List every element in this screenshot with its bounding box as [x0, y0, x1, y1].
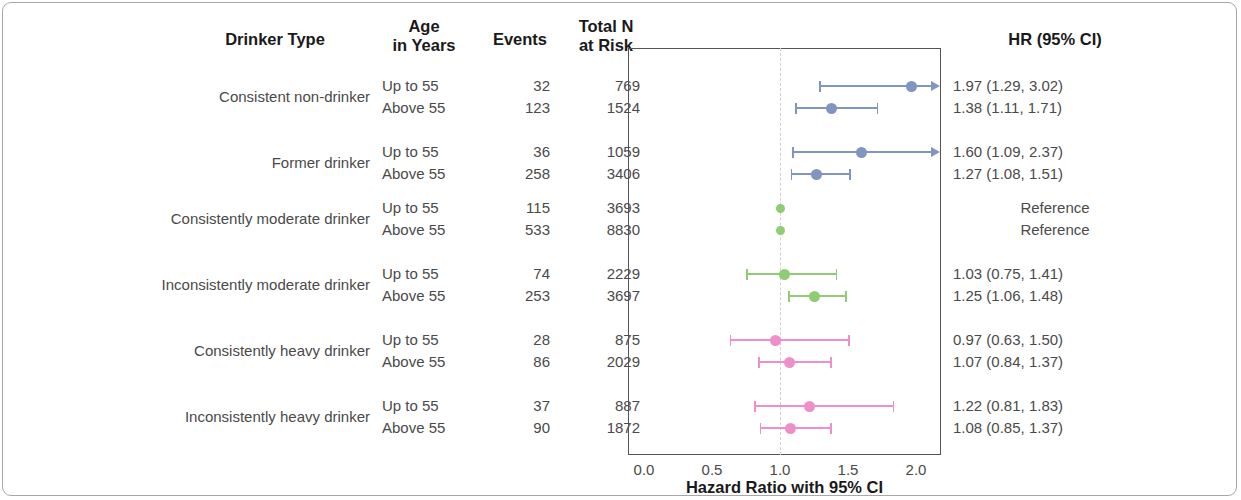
column-header-total-n-line1: Total N — [552, 17, 660, 36]
cell-events: 32 — [478, 78, 550, 94]
cell-age: Above 55 — [382, 222, 492, 238]
ci-cap-upper — [830, 357, 832, 368]
hazard-ratio-point-marker — [784, 357, 795, 368]
ci-cap-lower — [819, 81, 821, 92]
x-tick-label: 2.0 — [886, 461, 946, 478]
cell-hr-value: 1.07 (0.84, 1.37) — [953, 354, 1173, 370]
ci-cap-upper — [836, 269, 838, 280]
cell-hr-value: Reference — [955, 200, 1155, 216]
ci-cap-upper — [848, 335, 850, 346]
ci-cap-lower — [788, 291, 790, 302]
ci-cap-upper — [849, 169, 851, 180]
ci-overflow-arrow-right — [931, 81, 940, 91]
hazard-ratio-point-marker — [826, 103, 837, 114]
row-group-label: Inconsistently moderate drinker — [40, 277, 370, 293]
x-axis-title: Hazard Ratio with 95% CI — [628, 478, 941, 497]
cell-events: 123 — [478, 100, 550, 116]
hazard-ratio-point-marker — [785, 423, 796, 434]
cell-events: 86 — [478, 354, 550, 370]
cell-hr-value: 1.27 (1.08, 1.51) — [953, 166, 1173, 182]
reference-point-marker — [776, 226, 785, 235]
cell-events: 37 — [478, 398, 550, 414]
hazard-ratio-point-marker — [770, 335, 781, 346]
plot-area — [628, 48, 941, 455]
cell-hr-value: 1.25 (1.06, 1.48) — [953, 288, 1173, 304]
cell-events: 533 — [478, 222, 550, 238]
column-header-age-line2: in Years — [368, 36, 480, 55]
row-group-label: Consistently heavy drinker — [40, 343, 370, 359]
ci-cap-lower — [746, 269, 748, 280]
row-group-label: Consistently moderate drinker — [40, 211, 370, 227]
cell-hr-value: 0.97 (0.63, 1.50) — [953, 332, 1173, 348]
x-tick-label: 0.0 — [614, 461, 674, 478]
cell-hr-value: 1.22 (0.81, 1.83) — [953, 398, 1173, 414]
ci-overflow-arrow-right — [931, 147, 940, 157]
column-header-hr: HR (95% CI) — [955, 30, 1155, 49]
cell-hr-value: 1.60 (1.09, 2.37) — [953, 144, 1173, 160]
cell-events: 74 — [478, 266, 550, 282]
reference-line-at-1 — [780, 48, 781, 455]
row-group-label: Inconsistently heavy drinker — [40, 409, 370, 425]
x-tick-label: 1.0 — [750, 461, 810, 478]
ci-cap-upper — [830, 423, 832, 434]
cell-hr-value: 1.03 (0.75, 1.41) — [953, 266, 1173, 282]
hazard-ratio-point-marker — [804, 401, 815, 412]
x-tick-label: 1.5 — [818, 461, 878, 478]
row-group-label: Consistent non-drinker — [40, 89, 370, 105]
cell-age: Up to 55 — [382, 398, 492, 414]
column-header-age-line1: Age — [368, 17, 480, 36]
row-group-label: Former drinker — [40, 155, 370, 171]
hazard-ratio-point-marker — [779, 269, 790, 280]
cell-events: 258 — [478, 166, 550, 182]
hazard-ratio-point-marker — [856, 147, 867, 158]
cell-age: Above 55 — [382, 288, 492, 304]
cell-events: 28 — [478, 332, 550, 348]
ci-cap-upper — [845, 291, 847, 302]
cell-age: Above 55 — [382, 420, 492, 436]
reference-point-marker — [776, 204, 785, 213]
cell-age: Up to 55 — [382, 144, 492, 160]
cell-events: 36 — [478, 144, 550, 160]
ci-cap-lower — [792, 147, 794, 158]
confidence-interval-line — [754, 405, 893, 407]
cell-age: Above 55 — [382, 354, 492, 370]
ci-cap-lower — [795, 103, 797, 114]
cell-age: Up to 55 — [382, 266, 492, 282]
confidence-interval-line — [730, 339, 848, 341]
x-tick-label: 0.5 — [682, 461, 742, 478]
hazard-ratio-point-marker — [809, 291, 820, 302]
ci-cap-lower — [791, 169, 793, 180]
cell-events: 90 — [478, 420, 550, 436]
cell-age: Up to 55 — [382, 332, 492, 348]
hazard-ratio-point-marker — [906, 81, 917, 92]
ci-cap-upper — [877, 103, 879, 114]
cell-age: Up to 55 — [382, 200, 492, 216]
column-header-drinker-type: Drinker Type — [150, 30, 400, 49]
forest-plot-figure: Drinker Type Age in Years Events Total N… — [0, 0, 1241, 500]
ci-cap-lower — [760, 423, 762, 434]
cell-events: 253 — [478, 288, 550, 304]
cell-hr-value: 1.08 (0.85, 1.37) — [953, 420, 1173, 436]
cell-age: Above 55 — [382, 166, 492, 182]
ci-cap-upper — [893, 401, 895, 412]
column-header-age: Age in Years — [368, 17, 480, 55]
cell-hr-value: Reference — [955, 222, 1155, 238]
ci-cap-lower — [730, 335, 732, 346]
hazard-ratio-point-marker — [811, 169, 822, 180]
cell-events: 115 — [478, 200, 550, 216]
cell-hr-value: 1.97 (1.29, 3.02) — [953, 78, 1173, 94]
ci-cap-lower — [758, 357, 760, 368]
confidence-interval-line — [746, 273, 836, 275]
cell-age: Above 55 — [382, 100, 492, 116]
ci-cap-lower — [754, 401, 756, 412]
cell-hr-value: 1.38 (1.11, 1.71) — [953, 100, 1173, 116]
cell-age: Up to 55 — [382, 78, 492, 94]
